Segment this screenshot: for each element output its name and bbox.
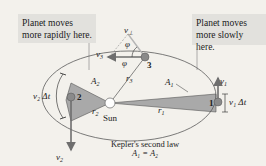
planet-2-icon: [67, 93, 75, 101]
a2-label: A2: [90, 76, 100, 87]
v-perp-vector: [128, 34, 145, 57]
v1dt-label: v₁ Δt: [229, 97, 247, 107]
v2dt-arc: [56, 74, 63, 118]
sun-icon: [105, 98, 115, 108]
a1-label: A1: [164, 77, 174, 88]
v2-label: v2: [56, 152, 63, 163]
v2dt-label: v₂ Δt: [33, 91, 51, 101]
planet-3-label: 3: [147, 60, 152, 70]
planet-1-icon: [214, 98, 222, 106]
v1-label: v1: [220, 76, 227, 87]
caption: Kepler's second law A₁ = A₂: [100, 140, 190, 158]
planet-1-label: 1: [209, 98, 214, 108]
v-perp-label: v⊥: [124, 25, 133, 36]
planet-2-label: 2: [77, 92, 82, 102]
caption-line2: A₁ = A₂: [100, 149, 190, 158]
phi-label-bottom: φ: [122, 58, 127, 68]
v3-label: v3: [96, 49, 103, 60]
sun-label: Sun: [103, 113, 118, 123]
phi-arc: [132, 47, 137, 57]
phi-label-top: φ: [125, 39, 130, 49]
